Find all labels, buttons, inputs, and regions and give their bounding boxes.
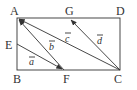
point-label-g: G (65, 4, 74, 18)
vector-label-b: b (49, 41, 54, 52)
point-labels: A G D E B F C (5, 4, 125, 86)
geometry-diagram: A G D E B F C a b c d (0, 0, 137, 90)
vector-a-line (17, 44, 62, 69)
vector-label-c: c (65, 33, 70, 44)
point-label-d: D (116, 4, 125, 18)
vector-b-line (19, 20, 64, 70)
vector-label-d: d (97, 35, 103, 46)
point-label-f: F (63, 72, 70, 86)
vector-labels: a b c d (29, 33, 103, 67)
vector-d-line (71, 20, 120, 70)
point-label-c: C (114, 72, 122, 86)
vector-c-line (19, 19, 120, 70)
vector-label-a: a (29, 56, 34, 67)
point-label-b: B (13, 72, 21, 86)
point-label-a: A (10, 4, 19, 18)
point-label-e: E (5, 38, 12, 52)
